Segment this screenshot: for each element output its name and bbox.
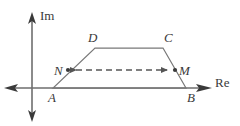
point-label-n: N: [53, 63, 64, 78]
complex-plane-figure: Im Re A B C D N M: [0, 0, 240, 126]
point-label-m: M: [178, 63, 191, 78]
real-axis-label: Re: [215, 75, 230, 90]
vertex-label-c: C: [164, 30, 173, 45]
figure-canvas: Im Re A B C D N M: [0, 0, 240, 126]
vertex-label-d: D: [87, 30, 98, 45]
trapezoid-outline: [53, 48, 186, 88]
imaginary-axis-label: Im: [40, 8, 54, 23]
vertex-label-b: B: [187, 90, 195, 105]
vertex-label-a: A: [47, 90, 56, 105]
point-marker-n: [66, 68, 70, 72]
point-marker-m: [173, 68, 177, 72]
